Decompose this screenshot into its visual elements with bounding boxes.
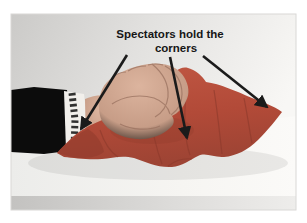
- jacket-sleeve: [11, 87, 70, 154]
- instructional-photo-figure: Spectators hold the corners: [0, 0, 307, 223]
- annotation-label-line2: corners: [155, 42, 197, 54]
- photograph: Spectators hold the corners: [11, 14, 296, 210]
- annotation-label-line1: Spectators hold the: [116, 28, 223, 40]
- table-edge: [11, 196, 296, 210]
- photo-canvas: Spectators hold the corners: [0, 0, 307, 223]
